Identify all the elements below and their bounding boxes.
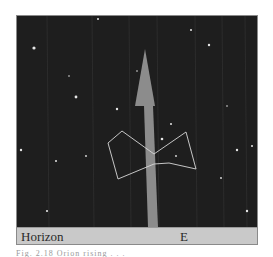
star [161, 138, 164, 141]
star [236, 149, 238, 151]
star [85, 155, 87, 157]
stars [20, 18, 253, 212]
star [246, 210, 248, 212]
star [170, 123, 172, 125]
star [190, 29, 192, 31]
horizon-bar: Horizon E [17, 227, 258, 245]
horizon-label: Horizon [21, 228, 64, 245]
star [75, 96, 78, 99]
star [175, 155, 177, 157]
star [46, 210, 48, 212]
compass-direction-label: E [180, 228, 188, 245]
star [220, 177, 222, 179]
star [20, 149, 22, 151]
sky-diagram: Horizon E [16, 15, 258, 245]
star [208, 44, 210, 46]
star [251, 145, 253, 147]
star [226, 105, 228, 107]
star [116, 108, 118, 110]
star [68, 75, 70, 77]
star [55, 160, 57, 162]
star [97, 18, 99, 20]
direction-arrow-icon [135, 49, 158, 227]
star [136, 70, 138, 72]
night-sky [17, 16, 258, 227]
figure-caption: Fig. 2.18 Orion rising . . . [16, 250, 216, 257]
star [32, 46, 35, 49]
